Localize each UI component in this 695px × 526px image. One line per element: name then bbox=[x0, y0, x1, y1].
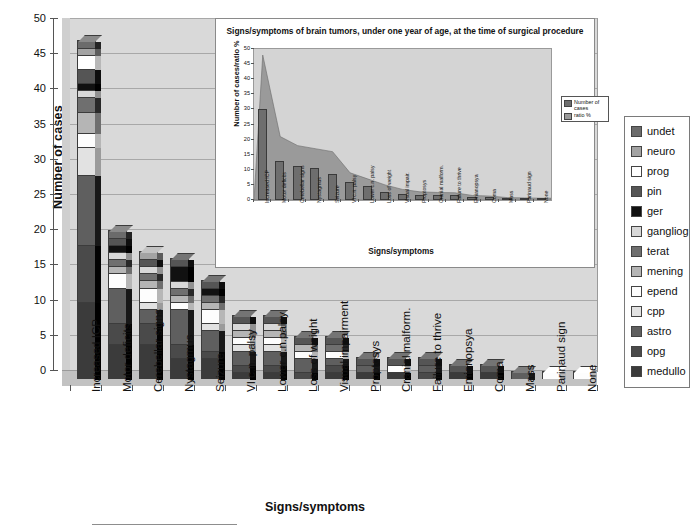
legend-item: medullo bbox=[625, 361, 689, 381]
bar-segment-side bbox=[157, 281, 163, 288]
y-tick-mark bbox=[50, 159, 58, 160]
bar-segment-side bbox=[95, 56, 101, 70]
legend-swatch bbox=[631, 186, 642, 197]
y-tick-label: 20 bbox=[10, 223, 46, 235]
bar-segment bbox=[78, 175, 95, 245]
inset-y-tick-mark bbox=[251, 154, 254, 155]
inset-y-tick-label: 15 bbox=[230, 151, 250, 157]
bar-segment bbox=[140, 273, 157, 280]
bar-segment-side bbox=[188, 296, 194, 303]
x-tick-label: Motor deficits bbox=[121, 324, 133, 392]
inset-y-tick-label: 40 bbox=[230, 75, 250, 81]
bar-segment bbox=[140, 302, 157, 309]
bar-segment bbox=[140, 266, 157, 273]
bar-segment-side bbox=[188, 260, 194, 267]
x-tick-label: VI c.n. palsy bbox=[245, 329, 257, 392]
legend-item-label: opg bbox=[647, 346, 665, 357]
bar-segment bbox=[78, 69, 95, 83]
inset-y-tick-label: 45 bbox=[230, 60, 250, 66]
inset-y-tick-mark bbox=[251, 169, 254, 170]
y-tick-label: 40 bbox=[10, 82, 46, 94]
bar-segment-side bbox=[95, 134, 101, 148]
inset-x-tick-mark bbox=[253, 199, 254, 202]
x-tick-mark bbox=[101, 385, 102, 391]
bar-segment bbox=[109, 245, 126, 252]
inset-x-tick-mark bbox=[428, 199, 429, 202]
bar-segment-side bbox=[95, 176, 101, 246]
legend-swatch bbox=[631, 366, 642, 377]
bar-segment bbox=[202, 302, 219, 309]
inset-legend-item-label: ratio % bbox=[574, 112, 591, 118]
bar-segment bbox=[78, 83, 95, 90]
y-tick-label: 50 bbox=[10, 12, 46, 24]
legend-item-label: terat bbox=[647, 246, 669, 257]
bar-segment-side bbox=[188, 303, 194, 310]
y-tick-label: 25 bbox=[10, 188, 46, 200]
x-tick-label: Coma bbox=[493, 361, 505, 392]
inset-x-tick-label: Mass bbox=[508, 191, 514, 203]
inset-x-tick-label: Nystagmus bbox=[316, 177, 322, 203]
inset-x-tick-mark bbox=[270, 199, 271, 202]
y-tick-label: 15 bbox=[10, 258, 46, 270]
y-tick-label: 45 bbox=[10, 47, 46, 59]
inset-y-tick-label: 25 bbox=[230, 121, 250, 127]
inset-x-tick-label: Seizure bbox=[334, 185, 340, 203]
x-axis-title: Signs/symptoms bbox=[150, 500, 480, 514]
x-tick-mark bbox=[163, 385, 164, 391]
inset-x-tick-label: Parinaud sign bbox=[526, 171, 532, 203]
y-tick-mark bbox=[50, 264, 58, 265]
inset-x-tick-label: Cerebellar signs bbox=[299, 166, 305, 203]
bar-segment bbox=[202, 323, 219, 330]
legend-item: prog bbox=[625, 161, 689, 181]
legend-item: ger bbox=[625, 201, 689, 221]
bar-segment-side bbox=[95, 246, 101, 302]
inset-x-tick-mark bbox=[533, 199, 534, 202]
inset-legend-item: ratio % bbox=[564, 112, 608, 120]
x-tick-mark bbox=[566, 385, 567, 391]
y-tick-mark bbox=[50, 194, 58, 195]
x-tick-label: Visual impairment bbox=[338, 301, 350, 392]
bar-segment-side bbox=[95, 113, 101, 134]
legend-item-label: mening bbox=[647, 266, 683, 277]
x-tick-mark bbox=[473, 385, 474, 391]
inset-x-tick-label: Increased ICP bbox=[264, 170, 270, 203]
legend-item: gangliog bbox=[625, 221, 689, 241]
legend-item-label: gangliog bbox=[647, 226, 689, 237]
bar-segment bbox=[171, 281, 188, 288]
inset-legend-item: Number of cases bbox=[564, 99, 608, 111]
bar-segment-side bbox=[126, 274, 132, 288]
bar-segment bbox=[109, 259, 126, 266]
x-tick-mark bbox=[380, 385, 381, 391]
inset-chart: Signs/symptoms of brain tumors, under on… bbox=[215, 18, 595, 268]
bar-segment bbox=[78, 97, 95, 111]
legend-item: mening bbox=[625, 261, 689, 281]
legend-item: opg bbox=[625, 341, 689, 361]
inset-x-tick-label: Emianopsya bbox=[473, 174, 479, 203]
x-tick-mark bbox=[504, 385, 505, 391]
y-tick-mark bbox=[50, 88, 58, 89]
legend-swatch bbox=[631, 166, 642, 177]
inset-y-tick-mark bbox=[251, 48, 254, 49]
bar-segment-side bbox=[126, 260, 132, 267]
y-tick-mark bbox=[50, 370, 58, 371]
bar-segment bbox=[78, 55, 95, 69]
bar-segment-side bbox=[95, 91, 101, 98]
y-tick-label: 10 bbox=[10, 294, 46, 306]
inset-x-tick-mark bbox=[305, 199, 306, 202]
y-tick-mark bbox=[50, 229, 58, 230]
bar-segment-side bbox=[188, 282, 194, 289]
bar-segment bbox=[202, 288, 219, 295]
x-tick-label: Nystagmus bbox=[183, 334, 195, 392]
bar-segment bbox=[109, 231, 126, 238]
inset-x-tick-mark bbox=[463, 199, 464, 202]
legend-item: pin bbox=[625, 181, 689, 201]
y-tick-mark bbox=[50, 18, 58, 19]
bar-segment bbox=[78, 41, 95, 48]
bar-segment-side bbox=[126, 232, 132, 239]
inset-y-tick-mark bbox=[251, 63, 254, 64]
x-tick-mark bbox=[597, 385, 598, 391]
bar-segment-side bbox=[157, 267, 163, 274]
legend: undetneuroprogpingergangliogteratmeninge… bbox=[624, 116, 690, 388]
inset-y-tick-mark bbox=[251, 124, 254, 125]
legend-item-label: neuro bbox=[647, 146, 675, 157]
